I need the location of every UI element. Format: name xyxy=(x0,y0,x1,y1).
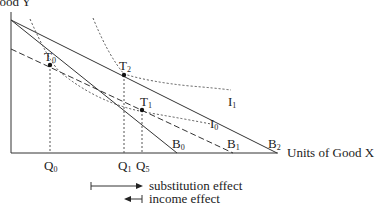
income-effect-arrow xyxy=(124,195,142,203)
substitution-effect-arrow xyxy=(91,182,143,190)
budget-line-b0 xyxy=(11,20,177,153)
label-i1: I1 xyxy=(228,94,236,110)
label-t1: T1 xyxy=(140,94,152,110)
budget-line-b2 xyxy=(11,20,277,153)
label-q5: Q5 xyxy=(136,158,149,174)
label-b2: B2 xyxy=(268,136,281,152)
x-axis-label: Units of Good X xyxy=(287,145,375,160)
label-q0: Q0 xyxy=(44,158,57,174)
label-b1: B1 xyxy=(227,136,240,152)
income-effect-label: income effect xyxy=(149,191,220,206)
y-axis-label: Good Y xyxy=(0,0,32,9)
label-t0: T0 xyxy=(44,49,56,65)
label-b0: B0 xyxy=(172,136,185,152)
label-i0: I0 xyxy=(210,116,218,132)
point-t2 xyxy=(122,73,126,77)
label-q1: Q1 xyxy=(118,158,131,174)
label-t2: T2 xyxy=(119,58,131,74)
indifference-curve-i1 xyxy=(93,18,231,90)
diagram-canvas: Good Y Units of Good X T0 T2 T1 I1 I0 B0… xyxy=(0,0,383,210)
